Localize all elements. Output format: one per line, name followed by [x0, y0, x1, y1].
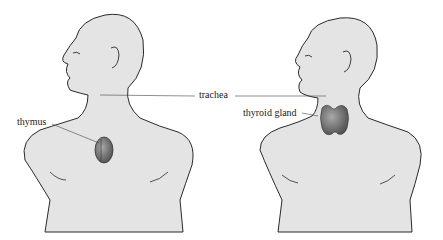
diagram-canvas [0, 0, 443, 240]
thyroid-gland-label: thyroid gland [243, 108, 297, 118]
right-figure [260, 18, 421, 232]
left-body-outline [24, 14, 193, 232]
thymus-label: thymus [17, 117, 46, 127]
anatomy-diagram: thymus trachea thyroid gland [0, 0, 443, 240]
thyroid-organ [321, 105, 349, 135]
trachea-label: trachea [199, 90, 228, 100]
left-figure [24, 14, 193, 232]
thymus-organ [95, 137, 113, 163]
